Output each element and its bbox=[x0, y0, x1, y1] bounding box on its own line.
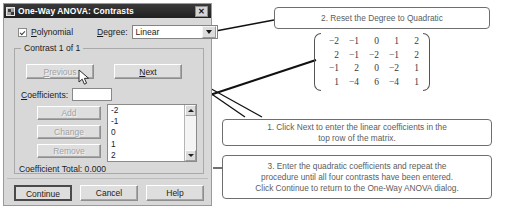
polynomial-checkbox[interactable] bbox=[18, 28, 27, 37]
help-button[interactable]: Help bbox=[146, 185, 204, 201]
anova-app-icon bbox=[6, 7, 15, 16]
dialog-titlebar[interactable]: One-Way ANOVA: Contrasts ✕ bbox=[4, 4, 211, 18]
matrix-cell: −4 bbox=[382, 76, 402, 90]
coefficients-row: Coefficients: bbox=[21, 88, 112, 101]
matrix-left-paren bbox=[314, 33, 321, 91]
dialog-body: Polynomial Degree: Linear Contrast 1 of … bbox=[4, 18, 211, 206]
matrix-cell: 1 bbox=[382, 35, 402, 49]
screenshot-canvas: One-Way ANOVA: Contrasts ✕ Polynomial De… bbox=[0, 0, 509, 212]
chevron-down-icon[interactable] bbox=[202, 26, 216, 38]
list-edit-buttons: Add Change Remove bbox=[37, 106, 101, 163]
cancel-button[interactable]: Cancel bbox=[80, 185, 138, 201]
coefficient-total-value: 0.000 bbox=[85, 164, 107, 174]
coefficient-list[interactable]: -2-1012 bbox=[108, 105, 184, 161]
scroll-up-icon[interactable] bbox=[185, 105, 196, 116]
dialog-action-buttons: Continue Cancel Help bbox=[14, 185, 204, 201]
add-button[interactable]: Add bbox=[37, 106, 101, 120]
close-icon[interactable]: ✕ bbox=[195, 6, 208, 17]
matrix-cell: 6 bbox=[362, 76, 382, 90]
matrix-cell: 2 bbox=[342, 62, 362, 76]
coefficient-listbox[interactable]: -2-1012 bbox=[107, 104, 197, 162]
scroll-down-icon[interactable] bbox=[185, 150, 196, 161]
degree-dropdown[interactable]: Linear bbox=[132, 25, 218, 39]
remove-button[interactable]: Remove bbox=[37, 144, 101, 158]
degree-control: Degree: Linear bbox=[97, 25, 218, 39]
list-item[interactable]: 1 bbox=[111, 139, 184, 150]
matrix-cell: −1 bbox=[342, 35, 362, 49]
matrix-cell: −1 bbox=[322, 62, 342, 76]
matrix-cell: −2 bbox=[362, 49, 382, 63]
coefficient-total: Coefficient Total: 0.000 bbox=[19, 164, 106, 174]
matrix-cell: 2 bbox=[402, 49, 422, 63]
callout-step-3-text: 3. Enter the quadratic coefficients and … bbox=[255, 161, 458, 194]
matrix-cell: 0 bbox=[362, 62, 382, 76]
matrix-cell: 2 bbox=[322, 49, 342, 63]
matrix-cell: 1 bbox=[402, 62, 422, 76]
options-row: Polynomial Degree: Linear bbox=[4, 24, 213, 44]
matrix-cell: 2 bbox=[402, 35, 422, 49]
matrix-cell: −1 bbox=[342, 49, 362, 63]
list-item[interactable]: -2 bbox=[111, 105, 184, 116]
coefficient-list-scrollbar[interactable] bbox=[184, 105, 196, 161]
matrix-cell: 0 bbox=[362, 35, 382, 49]
matrix-cell: 1 bbox=[402, 76, 422, 90]
matrix-right-paren bbox=[423, 33, 430, 91]
polynomial-checkbox-row[interactable]: Polynomial bbox=[18, 27, 73, 37]
list-item[interactable]: -1 bbox=[111, 116, 184, 127]
matrix-cell: 1 bbox=[322, 76, 342, 90]
callout-step-3: 3. Enter the quadratic coefficients and … bbox=[222, 155, 492, 199]
mouse-cursor-icon bbox=[78, 69, 92, 87]
dialog-divider bbox=[7, 178, 208, 179]
list-item[interactable]: 0 bbox=[111, 127, 184, 138]
matrix-cell: −2 bbox=[382, 62, 402, 76]
change-button[interactable]: Change bbox=[37, 125, 101, 139]
coefficients-input[interactable] bbox=[72, 88, 112, 101]
anova-contrasts-dialog: One-Way ANOVA: Contrasts ✕ Polynomial De… bbox=[3, 3, 212, 206]
callout-step-2: 2. Reset the Degree to Quadratic bbox=[274, 7, 490, 29]
contrast-groupbox: Contrast 1 of 1 Previous Next Coefficien… bbox=[14, 48, 204, 174]
degree-label: Degree: bbox=[97, 27, 128, 37]
polynomial-label: Polynomial bbox=[31, 27, 73, 37]
matrix-cell: −1 bbox=[382, 49, 402, 63]
callout-step-1: 1. Click Next to enter the linear coeffi… bbox=[222, 119, 492, 146]
list-item[interactable]: 2 bbox=[111, 150, 184, 161]
matrix-cell: −2 bbox=[322, 35, 342, 49]
degree-value: Linear bbox=[133, 27, 202, 37]
continue-button[interactable]: Continue bbox=[14, 185, 72, 201]
contrast-group-title: Contrast 1 of 1 bbox=[21, 43, 83, 53]
contrast-coefficient-matrix: −2−10122−1−2−12−120−211−46−41 bbox=[314, 33, 430, 91]
matrix-cells: −2−10122−1−2−12−120−211−46−41 bbox=[321, 33, 423, 91]
matrix-cell: −4 bbox=[342, 76, 362, 90]
scrollbar-track[interactable] bbox=[185, 116, 196, 150]
coefficient-total-label: Coefficient Total: bbox=[19, 164, 82, 174]
dialog-title: One-Way ANOVA: Contrasts bbox=[18, 4, 195, 18]
coefficients-label: Coefficients: bbox=[21, 90, 68, 100]
callout-step-2-text: 2. Reset the Degree to Quadratic bbox=[321, 13, 443, 24]
next-button[interactable]: Next bbox=[114, 64, 182, 79]
callout-step-1-text: 1. Click Next to enter the linear coeffi… bbox=[267, 122, 447, 144]
